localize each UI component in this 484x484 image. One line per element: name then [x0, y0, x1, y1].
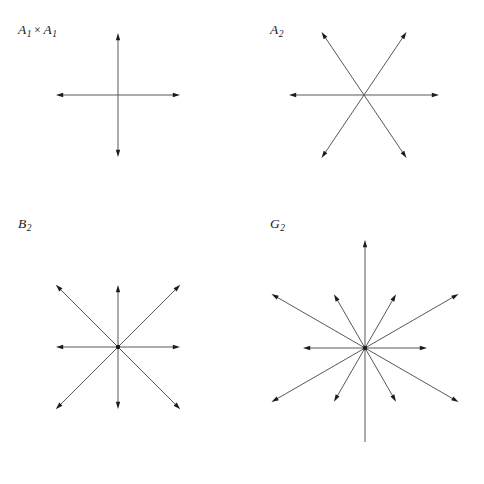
root-diagram-b2 [0, 200, 242, 442]
origin-dot [363, 346, 367, 350]
label-subscript: 1 [27, 29, 32, 39]
label-subscript: 2 [280, 223, 285, 233]
arrowhead-0deg [173, 345, 180, 349]
arrowhead-30deg [451, 294, 458, 300]
root-vector-short-300deg [365, 348, 394, 398]
arrowhead-90deg [116, 285, 120, 292]
panel-label-g2: G2 [270, 216, 285, 233]
origin-dot [116, 345, 120, 349]
root-vector-long-45deg [118, 288, 177, 347]
arrowhead-240deg [334, 394, 340, 401]
root-vector-long-315deg [118, 347, 177, 406]
arrowhead-180deg [56, 345, 63, 349]
label-base: G [270, 216, 280, 231]
arrowhead-180deg [289, 93, 296, 97]
arrowhead-300deg [390, 394, 396, 401]
arrowhead-90deg [363, 240, 367, 247]
arrowhead-0deg [432, 93, 439, 97]
arrowhead-0deg [173, 93, 180, 97]
root-vector-long-304deg [364, 95, 404, 155]
label-base: B [18, 216, 26, 231]
panel-g2 [242, 200, 484, 442]
panel-label-a2: A2 [270, 22, 284, 39]
root-vector-long-236deg [324, 95, 364, 155]
panel-label-a1xa1: A1×A1 [18, 22, 57, 39]
arrowhead-60deg [390, 294, 396, 301]
root-vector-long-135deg [59, 288, 118, 347]
root-vector-long-330deg [365, 348, 455, 400]
root-vector-short-240deg [336, 348, 365, 398]
root-vector-short-60deg [365, 298, 394, 348]
label-base: A [18, 22, 26, 37]
arrowhead-236deg [322, 151, 328, 158]
arrowhead-56deg [401, 32, 407, 39]
root-vector-long-150deg [275, 296, 365, 348]
label-base-2: A [44, 22, 52, 37]
root-vector-long-124deg [324, 35, 364, 95]
label-subscript-2: 1 [52, 29, 57, 39]
arrowhead-124deg [322, 32, 328, 39]
arrowhead-0deg [420, 346, 427, 350]
arrowhead-270deg [116, 402, 120, 409]
arrowhead-270deg [116, 150, 120, 157]
arrowhead-304deg [401, 151, 407, 158]
arrowhead-150deg [271, 294, 278, 300]
root-systems-figure: A1×A1 A2 B2 G2 [0, 0, 484, 484]
panel-label-b2: B2 [18, 216, 32, 233]
root-diagram-g2 [242, 200, 484, 442]
label-base: A [270, 22, 278, 37]
arrowhead-210deg [271, 396, 278, 402]
label-subscript: 2 [279, 29, 284, 39]
label-times-symbol: × [34, 23, 41, 37]
root-vector-long-225deg [59, 347, 118, 406]
arrowhead-330deg [451, 396, 458, 402]
panel-b2 [0, 200, 242, 442]
root-vector-long-30deg [365, 296, 455, 348]
root-vector-short-120deg [336, 298, 365, 348]
label-subscript: 2 [27, 223, 32, 233]
arrowhead-90deg [116, 33, 120, 40]
root-vector-long-210deg [275, 348, 365, 400]
arrowhead-180deg [56, 93, 63, 97]
arrowhead-180deg [303, 346, 310, 350]
root-vector-long-56deg [364, 35, 404, 95]
arrowhead-120deg [334, 294, 340, 301]
